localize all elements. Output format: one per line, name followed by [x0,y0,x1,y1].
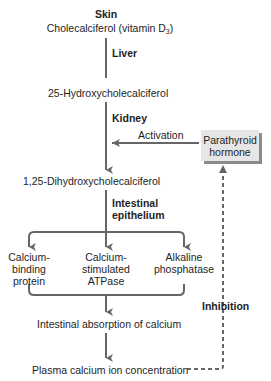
plasma-label: Plasma calcium ion concentration [32,364,188,376]
skin-label: Skin [86,8,126,20]
line: Calcium- [72,251,140,263]
line: Alkaline [148,251,220,263]
calcium-stimulated-atpase: Calcium- stimulated ATPase [72,251,140,287]
line: phosphatase [148,263,220,275]
line: binding [0,263,58,275]
pth-line-1: Parathyroid [203,134,257,146]
kidney-label: Kidney [112,112,147,124]
absorption-label: Intestinal absorption of calcium [37,318,181,330]
parathyroid-hormone-box: Parathyroid hormone [201,130,259,161]
intestinal-label-1: Intestinal [112,197,158,209]
cholecalciferol-label: Cholecalciferol (vitamin D3) [40,22,180,38]
inhibition-label: Inhibition [202,300,249,312]
calcium-binding-protein: Calcium- binding protein [0,251,58,287]
alkaline-phosphatase: Alkaline phosphatase [148,251,220,275]
cholecalciferol-text: Cholecalciferol (vitamin D [47,22,166,34]
line: ATPase [72,275,140,287]
hydroxy25-label: 25-Hydroxycholecalciferol [48,87,168,99]
line: Calcium- [0,251,58,263]
dihydroxy-label: 1,25-Dihydroxycholecalciferol [23,175,160,187]
line: stimulated [72,263,140,275]
intestinal-label-2: epithelium [112,209,165,221]
close-paren: ) [170,22,174,34]
line: protein [0,275,58,287]
activation-label: Activation [138,129,184,141]
liver-label: Liver [112,47,137,59]
pth-line-2: hormone [203,146,257,158]
